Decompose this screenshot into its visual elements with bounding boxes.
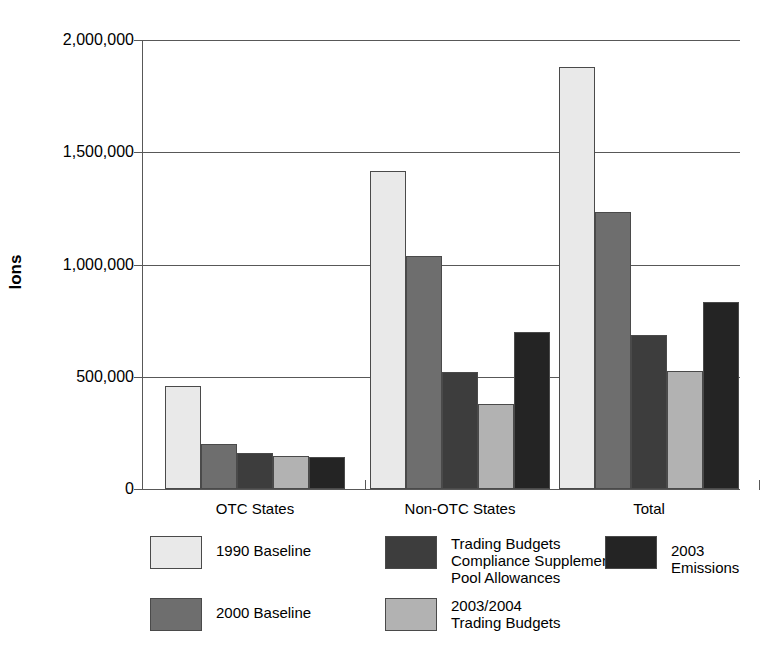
bar	[514, 332, 550, 489]
bar	[406, 256, 442, 489]
bar	[237, 453, 273, 489]
bar	[559, 67, 595, 489]
bar	[273, 456, 309, 489]
legend-swatch	[385, 536, 437, 569]
bar	[309, 457, 345, 489]
bar	[703, 302, 739, 489]
bar-group	[370, 40, 550, 489]
bar-chart: Ions 0500,0001,000,0001,500,0002,000,000…	[0, 0, 771, 658]
bar-group	[165, 40, 345, 489]
legend-item[interactable]: 1990 Baseline	[150, 535, 311, 569]
x-axis-tick	[365, 480, 366, 490]
legend-item[interactable]: 2003 Emissions	[605, 535, 760, 576]
chart-legend: 1990 BaselineTrading Budgets Compliance …	[150, 535, 760, 650]
bar	[165, 386, 201, 489]
legend-swatch	[150, 598, 202, 631]
bar	[478, 404, 514, 489]
y-axis-tick	[134, 377, 143, 378]
x-axis-category-label: Total	[519, 500, 771, 517]
x-axis-tick	[759, 480, 760, 490]
y-axis-tick	[134, 40, 143, 41]
legend-item[interactable]: 2000 Baseline	[150, 597, 311, 631]
bar-group	[559, 40, 739, 489]
y-axis-tick-label: 1,000,000	[63, 257, 134, 273]
legend-label: 2003 Emissions	[671, 535, 760, 576]
legend-swatch	[605, 536, 657, 569]
y-axis-tick-label: 1,500,000	[63, 144, 134, 160]
y-axis-tick	[134, 265, 143, 266]
bar	[201, 444, 237, 489]
y-axis-title: Ions	[6, 232, 26, 312]
legend-item[interactable]: 2003/2004 Trading Budgets	[385, 597, 561, 631]
y-axis-tick-label: 0	[125, 481, 134, 497]
legend-swatch	[150, 536, 202, 569]
legend-label: 2003/2004 Trading Budgets	[451, 597, 561, 631]
bar	[595, 212, 631, 489]
bar	[442, 372, 478, 489]
bar	[631, 335, 667, 489]
legend-label: Trading Budgets Compliance Supplement Po…	[451, 535, 614, 586]
y-axis-tick-label: 2,000,000	[63, 32, 134, 48]
bar	[667, 371, 703, 489]
y-axis-tick	[134, 152, 143, 153]
legend-label: 1990 Baseline	[216, 535, 311, 559]
x-axis-line	[142, 489, 740, 490]
plot-area	[143, 40, 740, 489]
y-axis-tick	[134, 489, 143, 490]
y-axis-tick-label: 500,000	[76, 369, 134, 385]
legend-label: 2000 Baseline	[216, 597, 311, 621]
legend-swatch	[385, 598, 437, 631]
bar	[370, 171, 406, 489]
legend-item[interactable]: Trading Budgets Compliance Supplement Po…	[385, 535, 614, 586]
y-axis-tick-labels: 0500,0001,000,0001,500,0002,000,000	[30, 40, 134, 489]
